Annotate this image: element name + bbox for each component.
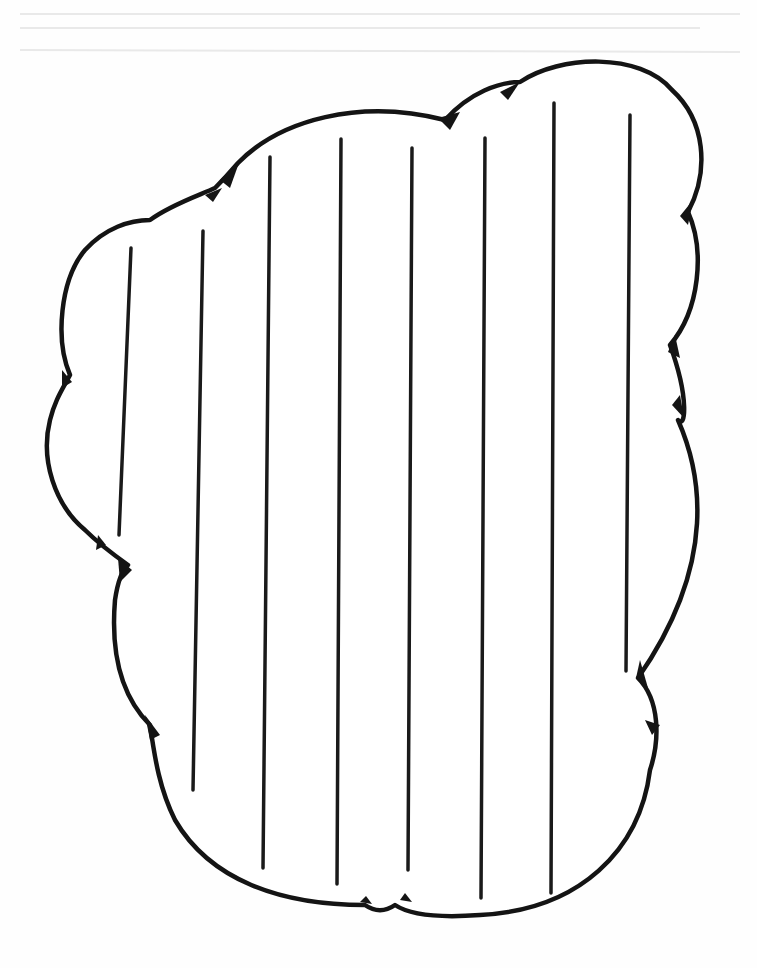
cloud-outline: [47, 62, 701, 917]
writing-paper-page: [0, 0, 757, 968]
cloud-template-graphic: [0, 0, 757, 968]
bleed-through-marks: [20, 14, 740, 52]
